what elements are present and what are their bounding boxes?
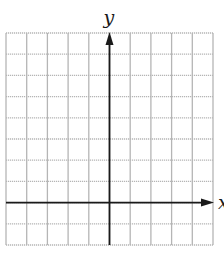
x-axis-label: x xyxy=(218,193,224,212)
coordinate-grid xyxy=(0,0,224,257)
y-axis-label: y xyxy=(104,8,115,27)
x-axis-arrow-icon xyxy=(201,199,214,207)
y-axis-arrow-icon xyxy=(106,32,114,45)
